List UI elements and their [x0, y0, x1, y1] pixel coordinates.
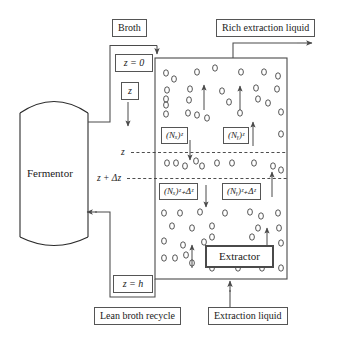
diagram-canvas: Fermentor Broth Rich extraction liquid z…: [0, 0, 338, 339]
z-variable-label: z: [121, 82, 139, 100]
control-volume-boundaries: [127, 153, 287, 179]
rich-extraction-liquid-label: Rich extraction liquid: [216, 19, 315, 37]
flux-label-ny-z: (Nᵧ)ᶻ: [223, 127, 249, 144]
extraction-liquid-label: Extraction liquid: [208, 307, 288, 325]
bubble-field: [162, 65, 284, 271]
axis-label-z-plus-dz: z + Δz: [97, 173, 121, 183]
z-h-label: z = h: [113, 275, 153, 293]
fermentor-label: Fermentor: [27, 167, 73, 179]
z-zero-label: z = 0: [115, 54, 153, 72]
flux-ny-zdz-text: (Nᵧ)ᶻ₊Δᶻ: [227, 186, 256, 196]
flux-label-nx-z: (Nₓ)ᶻ: [161, 127, 188, 144]
rich-extraction-pipe: [233, 43, 312, 58]
flux-nx-z-text: (Nₓ)ᶻ: [166, 130, 183, 140]
bubble-rise-arrows: [192, 85, 267, 268]
flux-label-nx-zdz: (Nₓ)ᶻ₊Δᶻ: [159, 183, 198, 200]
broth-label: Broth: [112, 19, 147, 37]
flux-nx-zdz-text: (Nₓ)ᶻ₊Δᶻ: [164, 186, 193, 196]
extractor-label: Extractor: [205, 245, 274, 268]
axis-label-z: z: [121, 147, 125, 157]
lean-broth-recycle-label: Lean broth recycle: [94, 307, 181, 325]
flux-ny-z-text: (Nᵧ)ᶻ: [228, 130, 244, 140]
flux-label-ny-zdz: (Nᵧ)ᶻ₊Δᶻ: [222, 183, 261, 200]
